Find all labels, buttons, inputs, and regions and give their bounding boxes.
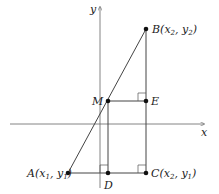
point-C — [144, 171, 149, 176]
label-M: M — [91, 95, 104, 108]
label-B: B(x2, y2) — [151, 23, 197, 37]
point-B — [144, 27, 149, 32]
point-D — [106, 171, 111, 176]
point-M — [106, 99, 111, 104]
label-D: D — [103, 179, 113, 192]
midpoint-diagram: x y B(x2, y2) M E A(x1, y1) C(x2, y1) D — [0, 0, 219, 194]
label-C: C(x2, y1) — [151, 167, 196, 181]
point-E — [144, 99, 149, 104]
label-A: A(x1, y1) — [26, 167, 72, 181]
y-axis-label: y — [89, 3, 97, 16]
x-axis-label: x — [201, 126, 208, 139]
diagram-svg: x y B(x2, y2) M E A(x1, y1) C(x2, y1) D — [0, 0, 219, 194]
label-E: E — [150, 95, 159, 108]
